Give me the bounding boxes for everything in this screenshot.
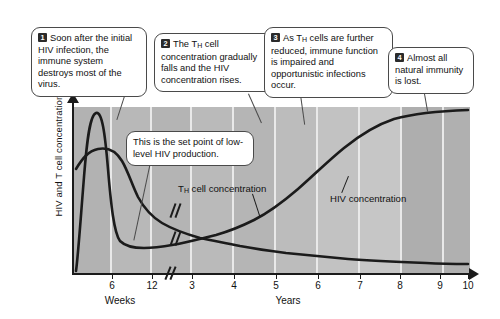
x-tick-label-4y: 4 <box>222 280 246 291</box>
x-tick-mark-12w <box>152 274 153 279</box>
figure-root: HIV and T cell concentration 6 12 Weeks … <box>0 0 500 319</box>
callout-2[interactable]: 2The TH cell concentration gradually fal… <box>154 33 275 92</box>
x-axis-arrow-icon <box>469 268 479 280</box>
callout-2-badge: 2 <box>161 39 170 48</box>
callout-4-text: Almost all natural immunity is lost. <box>395 53 463 86</box>
x-tick-mark-5y <box>276 274 277 279</box>
callout-4[interactable]: 4Almost all natural immunity is lost. <box>388 47 474 94</box>
x-tick-label-10y: 10 <box>456 280 480 291</box>
x-tick-label-7y: 7 <box>348 280 372 291</box>
x-tick-mark-4y <box>234 274 235 279</box>
x-tick-label-6y: 6 <box>306 280 330 291</box>
x-tick-label-3y: 3 <box>180 280 204 291</box>
x-tick-label-6w: 6 <box>100 280 124 291</box>
callout-set-point-text: This is the set point of low-level HIV p… <box>133 137 243 159</box>
x-axis-line <box>72 273 472 275</box>
x-tick-mark-8y <box>400 274 401 279</box>
hiv-curve-break-mark <box>168 231 184 246</box>
th-curve-break-mark <box>168 203 184 218</box>
weeks-label: Weeks <box>85 295 155 306</box>
callout-1-badge: 1 <box>38 33 47 42</box>
x-tick-mark-6w <box>112 274 113 279</box>
x-tick-mark-6y <box>318 274 319 279</box>
x-tick-mark-7y <box>360 274 361 279</box>
x-tick-label-12w: 12 <box>140 280 164 291</box>
th-cell-label-rest: cell concentration <box>189 183 266 194</box>
th-cell-concentration-label: TH cell concentration <box>178 183 266 194</box>
x-tick-label-9y: 9 <box>428 280 452 291</box>
x-tick-label-5y: 5 <box>264 280 288 291</box>
callout-set-point[interactable]: This is the set point of low-level HIV p… <box>126 131 254 166</box>
x-axis-break-mark <box>163 266 179 280</box>
callout-1-text: Soon after the initial HIV infection, th… <box>38 33 132 89</box>
callout-2-text-pre: The T <box>173 39 197 49</box>
x-tick-label-8y: 8 <box>388 280 412 291</box>
years-label: Years <box>253 295 323 306</box>
callout-4-badge: 4 <box>395 53 404 62</box>
x-tick-mark-10y <box>468 274 469 279</box>
callout-3-badge: 3 <box>271 33 280 42</box>
callout-3[interactable]: 3As TH cells are further reduced, immune… <box>264 27 393 98</box>
callout-1[interactable]: 1Soon after the initial HIV infection, t… <box>31 27 147 97</box>
x-tick-mark-9y <box>440 274 441 279</box>
callout-3-text-pre: As T <box>283 33 302 43</box>
x-tick-mark-3y <box>192 274 193 279</box>
hiv-concentration-label: HIV concentration <box>330 193 406 204</box>
hiv-label-text: HIV concentration <box>330 193 406 204</box>
y-axis-line <box>72 100 74 275</box>
